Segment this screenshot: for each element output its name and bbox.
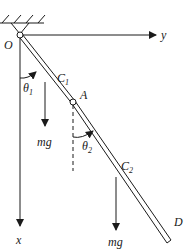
label-y-axis: y [160,28,167,42]
label-c2: C2 [121,159,133,175]
pivot-o [17,32,23,38]
label-x-axis: x [15,233,22,247]
label-origin: O [4,38,13,52]
label-weight-1: mg [37,135,52,149]
joint-a [70,99,76,105]
label-weight-2: mg [108,235,123,249]
theta2-arc [73,131,93,137]
label-joint-a: A [79,88,88,102]
theta1-arc [20,72,36,78]
double-pendulum-diagram: O y x C1 C2 A D θ1 θ2 mg mg [0,0,186,252]
ceiling-support [0,15,45,34]
label-theta1: θ1 [23,81,33,97]
label-c1: C1 [57,71,69,87]
label-theta2: θ2 [82,139,92,155]
label-end-d: D [173,215,183,229]
